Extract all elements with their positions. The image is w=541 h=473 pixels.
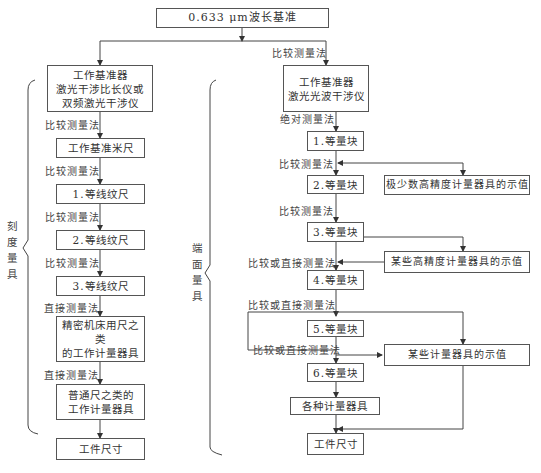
gauge-block-grade6-box: 6.等量块 [307,363,364,382]
right-edge-label: 比较测量法 [279,203,334,218]
right-edge-label: 比较或直接测量法 [248,297,336,312]
few-high-precision-instruments-box: 极少数高精度计量器具的示值 [384,175,530,195]
gauge-block-grade1-box: 1.等量块 [307,131,364,151]
left-edge-label: 比较测量法 [45,117,100,132]
right-side-label: 端 面 量 具 [191,240,203,304]
root-wavelength-standard: 0.633 μm波长基准 [156,8,329,28]
right-edge-label: 比较测量法 [279,156,334,171]
ordinary-ruler-box: 普通尺之类的 工作计量器具 [56,384,145,420]
line-scale-grade2-box: 2.等线纹尺 [56,230,145,250]
right-edge-label: 比较或直接测量法 [253,342,341,357]
left-edge-label: 比较测量法 [45,255,100,270]
gauge-block-grade3-box: 3.等量块 [307,222,364,242]
some-high-precision-instruments-box: 某些高精度计量器具的示值 [384,251,530,273]
left-workpiece-size-box: 工件尺寸 [56,438,145,460]
precision-machine-ruler-box: 精密机床用尺之类 的工作计量器具 [56,316,145,362]
right-edge-label: 比较或直接测量法 [248,255,336,270]
line-scale-grade1-box: 1.等线纹尺 [56,184,145,204]
right-edge-label: 绝对测量法 [280,111,335,126]
gauge-block-grade5-box: 5.等量块 [307,320,364,337]
left-edge-label: 直接测量法 [44,367,99,382]
left-edge-label: 比较测量法 [45,163,100,178]
gauge-block-grade4-box: 4.等量块 [307,270,364,290]
left-edge-label: 直接测量法 [44,300,99,315]
some-instruments-box: 某些计量器具的示值 [384,344,530,366]
right-workpiece-size-box: 工件尺寸 [307,433,364,455]
right-working-standard-box: 工作基准器 激光光波干涉仪 [283,65,369,112]
right-top-edge-label: 比较测量法 [272,45,327,60]
working-meter-ruler-box: 工作基准米尺 [56,138,145,158]
left-edge-label: 比较测量法 [45,209,100,224]
root-label: 0.633 μm波长基准 [188,11,297,25]
left-side-label: 刻 度 量 具 [6,218,18,282]
left-working-standard-box: 工作基准器 激光干涉比长仪或 双频激光干涉仪 [47,65,153,112]
line-scale-grade3-box: 3.等线纹尺 [56,276,145,296]
various-instruments-box: 各种计量器具 [290,397,380,415]
gauge-block-grade2-box: 2.等量块 [307,175,364,194]
